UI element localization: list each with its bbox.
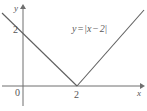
equation-minus: − [92,23,100,34]
absolute-value-graph-figure: y x 2 0 2 y=|x−2| [0,0,147,111]
x-tick-label-2: 2 [74,90,79,100]
y-axis-label: y [14,4,18,13]
x-axis-label: x [137,89,141,98]
y-axis-arrowhead [20,4,26,9]
origin-label: 0 [15,88,20,98]
equation-close-bar: | [105,23,107,34]
curve-right-branch [77,10,144,86]
equation-annotation: y=|x−2| [72,24,107,34]
equation-equals: = [77,23,85,34]
y-tick-label-2: 2 [13,25,18,35]
